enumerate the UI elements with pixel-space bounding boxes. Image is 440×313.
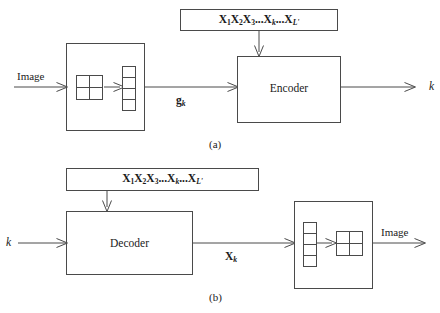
sequence-label-a: X1X2X3...Xk...XL' — [180, 14, 338, 26]
k-input-label-b: k — [6, 237, 11, 249]
image-input-label-a: Image — [17, 71, 44, 82]
sequence-label-b: X1X2X3...Xk...XL' — [66, 173, 259, 185]
patch-grid-cell-a-4 — [90, 88, 103, 100]
patch-grid-cell-a-2 — [90, 76, 103, 88]
patch-grid-cell-a-1 — [77, 76, 90, 88]
patch-grid-cell-b-4 — [350, 244, 363, 256]
decoder-label: Decoder — [66, 238, 193, 250]
caption-a: (a) — [209, 139, 221, 150]
encoder-label: Encoder — [237, 83, 341, 95]
vector-cell-b-3 — [304, 245, 317, 256]
reconstructed-vector-label-b: Xk — [225, 251, 237, 263]
image-output-label-b: Image — [381, 227, 408, 238]
k-output-label-a: k — [429, 81, 434, 93]
vector-cell-b-2 — [304, 234, 317, 245]
vector-cell-b-4 — [304, 256, 317, 267]
vector-cell-a-2 — [123, 78, 136, 89]
vector-cell-a-1 — [123, 67, 136, 78]
feature-vector-label-a: gk — [176, 95, 186, 107]
vector-cell-b-1 — [304, 223, 317, 234]
diagram-canvas — [0, 0, 440, 313]
figure-diagram: X1X2X3...Xk...XL' Image gk Encoder k (a)… — [0, 0, 440, 313]
caption-b: (b) — [209, 292, 222, 303]
patch-grid-cell-b-2 — [350, 232, 363, 244]
patch-grid-cell-b-3 — [337, 244, 350, 256]
patch-grid-cell-b-1 — [337, 232, 350, 244]
vector-cell-a-3 — [123, 89, 136, 100]
patch-grid-cell-a-3 — [77, 88, 90, 100]
vector-cell-a-4 — [123, 100, 136, 111]
